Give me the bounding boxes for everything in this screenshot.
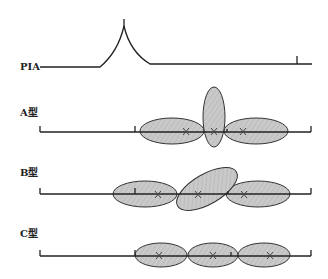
type-b-row: B型	[20, 159, 311, 219]
type-a-ellipse-vertical	[203, 87, 225, 147]
pia-waveform	[40, 26, 312, 67]
type-a-row: A型	[19, 87, 311, 147]
type-a-ellipse-right	[224, 118, 288, 144]
type-a-ellipse-left	[140, 118, 204, 144]
pia-row: PIA	[20, 19, 312, 72]
pia-label: PIA	[20, 61, 40, 72]
type-b-label: B型	[20, 166, 38, 178]
type-c-ellipse-right	[238, 243, 290, 267]
diagram: PIA A型 B型	[0, 0, 328, 279]
type-a-label: A型	[19, 106, 38, 118]
type-c-row: C型	[20, 227, 311, 267]
type-c-label: C型	[20, 227, 38, 239]
type-c-ellipse-left	[135, 243, 187, 267]
